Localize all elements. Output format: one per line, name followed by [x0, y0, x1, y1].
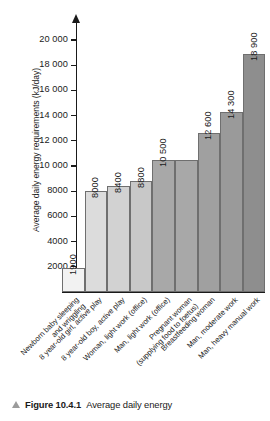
y-axis-tick-label: 8000: [47, 185, 68, 195]
bar: [85, 191, 108, 292]
bar-value-label: 8800: [136, 167, 146, 188]
bar-value-label: 8400: [113, 172, 123, 193]
bar-chart: Average daily energy requirements (kJ/da…: [0, 0, 270, 300]
y-axis-tick-label: 18 000: [39, 59, 68, 69]
bar: [243, 54, 266, 292]
y-axis-tick: [71, 140, 77, 141]
y-axis-tick: [71, 241, 77, 242]
bar-value-label: 8000: [90, 177, 100, 198]
bar-value-label: 10 500: [158, 138, 168, 167]
y-axis-tick: [71, 39, 77, 40]
y-axis-tick: [71, 90, 77, 91]
bar-value-label: 18 900: [249, 32, 259, 61]
y-axis-title: Average daily energy requirements (kJ/da…: [31, 15, 41, 285]
y-axis-tick: [71, 115, 77, 116]
figure-caption: Figure 10.4.1 Average daily energy: [12, 399, 268, 411]
x-axis-line: [62, 292, 265, 293]
bar: [107, 186, 130, 292]
bar: [175, 160, 198, 292]
y-axis-tick: [71, 65, 77, 66]
bar-value-label: 1900: [68, 254, 78, 275]
y-axis-line: [76, 22, 77, 293]
bar: [130, 181, 153, 292]
y-axis-tick: [71, 165, 77, 166]
bar: [220, 112, 243, 292]
bar: [198, 133, 221, 292]
y-axis-tick-label: 6000: [47, 210, 68, 220]
bar-value-label: 14 300: [226, 90, 236, 119]
y-axis-tick-label: 20 000: [39, 34, 68, 44]
bar-value-label: 12 600: [203, 112, 213, 141]
y-axis-tick-label: 16 000: [39, 84, 68, 94]
figure-container: Average daily energy requirements (kJ/da…: [0, 0, 270, 421]
y-axis-tick-label: 14 000: [39, 110, 68, 120]
y-axis-tick: [71, 191, 77, 192]
y-axis-tick-label: 4000: [47, 236, 68, 246]
caption-text: Average daily energy: [86, 399, 172, 410]
triangle-up-icon: [12, 401, 20, 408]
figure-number: Figure 10.4.1: [25, 399, 81, 410]
y-axis-tick: [71, 216, 77, 217]
y-axis-tick-label: 10 000: [39, 160, 68, 170]
y-axis-arrow-icon: [72, 14, 80, 23]
bar: [152, 160, 175, 292]
y-axis-tick-label: 12 000: [39, 135, 68, 145]
